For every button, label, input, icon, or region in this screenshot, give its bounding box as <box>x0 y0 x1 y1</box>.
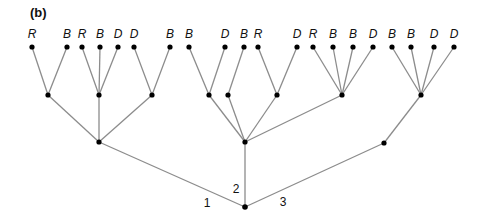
internal-node-a1 <box>45 92 50 97</box>
root-node <box>242 204 248 210</box>
edge-leaf-15 <box>342 47 373 95</box>
edge-leaf-19 <box>421 47 454 95</box>
internal-node-c1 <box>418 92 423 97</box>
edge-n2-b2 <box>228 95 245 142</box>
leaf-node <box>97 44 102 49</box>
edge-n2-b1 <box>209 95 245 142</box>
internal-node-n3 <box>381 140 386 145</box>
branch-label: 2 <box>233 182 240 196</box>
edge-leaf-18 <box>421 47 434 95</box>
leaf-node <box>167 44 172 49</box>
edge-leaf-5 <box>134 47 152 95</box>
leaf-node <box>431 44 436 49</box>
leaf-node <box>186 44 191 49</box>
leaf-label: B <box>388 27 396 41</box>
tree-labels: RBRBDDBBDBRDRBBDBBDD123 <box>28 27 459 210</box>
edge-leaf-8 <box>209 47 225 95</box>
leaf-node <box>29 44 34 49</box>
branch-label: 3 <box>280 195 287 209</box>
leaf-label: B <box>166 27 174 41</box>
edge-leaf-1 <box>48 47 67 95</box>
panel-label: (b) <box>30 5 47 20</box>
edge-leaf-4 <box>99 47 118 95</box>
leaf-node <box>255 44 260 49</box>
edge-leaf-0 <box>32 47 48 95</box>
edge-root-n1 <box>99 142 245 207</box>
leaf-label: D <box>450 27 459 41</box>
leaf-label: B <box>96 27 104 41</box>
tree-edges <box>32 47 454 207</box>
leaf-node <box>451 44 456 49</box>
branch-label: 1 <box>204 196 211 210</box>
leaf-node <box>408 44 413 49</box>
edge-leaf-3 <box>99 47 100 95</box>
internal-node-b4 <box>339 92 344 97</box>
leaf-node <box>131 44 136 49</box>
leaf-node <box>350 44 355 49</box>
tree-nodes <box>29 44 456 209</box>
edge-n3-c1 <box>384 95 421 143</box>
internal-node-b3 <box>274 92 279 97</box>
edge-leaf-9 <box>228 47 244 95</box>
edge-leaf-14 <box>342 47 353 95</box>
leaf-node <box>310 44 315 49</box>
edge-leaf-2 <box>82 47 99 95</box>
leaf-label: D <box>293 27 302 41</box>
leaf-label: R <box>28 27 37 41</box>
internal-node-n2 <box>242 139 247 144</box>
leaf-label: R <box>254 27 263 41</box>
internal-node-b2 <box>225 92 230 97</box>
leaf-node <box>330 44 335 49</box>
leaf-node <box>241 44 246 49</box>
edge-leaf-10 <box>258 47 277 95</box>
edge-n1-a1 <box>48 95 99 142</box>
leaf-node <box>389 44 394 49</box>
leaf-label: D <box>430 27 439 41</box>
internal-node-a2 <box>96 92 101 97</box>
leaf-label: D <box>369 27 378 41</box>
tree-diagram: RBRBDDBBDBRDRBBDBBDD123 (b) <box>0 0 482 217</box>
edge-leaf-7 <box>189 47 209 95</box>
leaf-node <box>79 44 84 49</box>
internal-node-a3 <box>149 92 154 97</box>
leaf-node <box>115 44 120 49</box>
edge-leaf-11 <box>277 47 297 95</box>
leaf-label: B <box>329 27 337 41</box>
leaf-label: D <box>221 27 230 41</box>
edge-n1-a3 <box>99 95 152 142</box>
leaf-label: D <box>114 27 123 41</box>
leaf-label: B <box>240 27 248 41</box>
leaf-label: B <box>407 27 415 41</box>
leaf-node <box>222 44 227 49</box>
leaf-node <box>294 44 299 49</box>
leaf-label: B <box>63 27 71 41</box>
edge-root-n3 <box>245 143 384 207</box>
leaf-label: B <box>349 27 357 41</box>
edge-n2-b4 <box>245 95 342 142</box>
edge-leaf-6 <box>152 47 170 95</box>
leaf-label: B <box>185 27 193 41</box>
leaf-node <box>64 44 69 49</box>
leaf-node <box>370 44 375 49</box>
leaf-label: R <box>309 27 318 41</box>
leaf-label: R <box>78 27 87 41</box>
internal-node-n1 <box>96 139 101 144</box>
internal-node-b1 <box>206 92 211 97</box>
leaf-label: D <box>130 27 139 41</box>
